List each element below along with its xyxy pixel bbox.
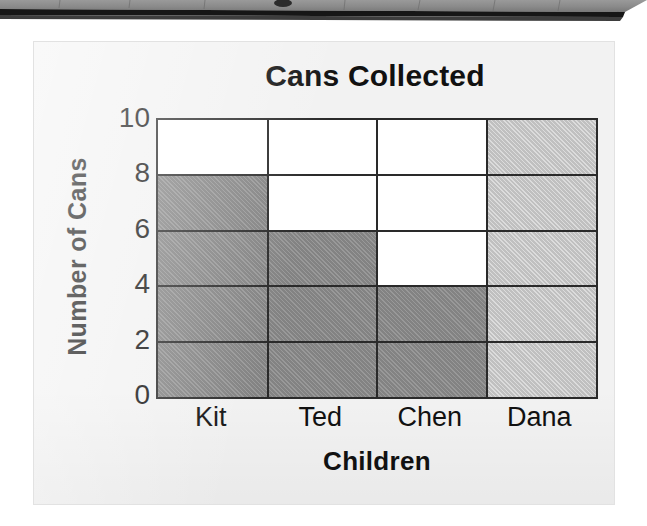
y-axis-title: Number of Cans xyxy=(63,142,92,372)
bar-column xyxy=(487,120,597,397)
x-axis-title: Children xyxy=(156,446,598,477)
y-tick-label: 6 xyxy=(106,215,150,243)
chart-card: Cans Collected Number of Cans 0246810 Ki… xyxy=(33,41,615,505)
y-tick-label: 8 xyxy=(106,159,150,187)
x-tick-label-chen: Chen xyxy=(375,404,485,431)
chart-title: Cans Collected xyxy=(152,59,598,93)
x-tick-label-ted: Ted xyxy=(266,404,376,431)
y-tick-label: 10 xyxy=(106,104,150,132)
page-edge-rulings xyxy=(59,0,560,11)
bar-column xyxy=(158,120,268,397)
bar-ted xyxy=(268,231,378,397)
gridline-vertical xyxy=(267,120,269,397)
x-tick-label-kit: Kit xyxy=(156,404,266,431)
y-tick-label: 4 xyxy=(106,270,150,298)
page-edge-face xyxy=(0,0,647,12)
y-tick-label: 2 xyxy=(106,326,150,354)
plot-area xyxy=(156,118,598,399)
page-edge-mark xyxy=(274,0,292,7)
y-tick-label: 0 xyxy=(106,381,150,409)
page-edge-shadow-soft xyxy=(0,15,623,21)
bar-column xyxy=(377,120,487,397)
y-axis-tick-labels: 0246810 xyxy=(106,101,150,389)
page-edge-shadow xyxy=(0,9,625,17)
x-tick-label-dana: Dana xyxy=(485,404,595,431)
scanned-page-edge-artifact xyxy=(0,0,647,34)
gridline-vertical xyxy=(376,120,378,397)
bar-column xyxy=(268,120,378,397)
x-axis-tick-labels: KitTedChenDana xyxy=(156,404,598,442)
bar-dana xyxy=(487,120,597,397)
page-edge-svg xyxy=(0,0,647,34)
gridline-vertical xyxy=(486,120,488,397)
